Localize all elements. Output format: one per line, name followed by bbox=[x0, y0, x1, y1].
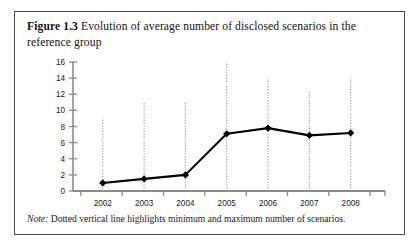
data-point-marker bbox=[99, 179, 106, 186]
x-axis-tick-label: 2003 bbox=[135, 199, 154, 208]
y-axis-tick-label: 10 bbox=[56, 106, 66, 115]
y-axis-tick-label: 6 bbox=[60, 139, 65, 148]
figure-label: Figure 1.3 bbox=[27, 20, 78, 33]
x-axis-tick-label: 2005 bbox=[218, 199, 237, 208]
y-axis-tick-label: 4 bbox=[60, 155, 65, 164]
x-axis-tick-label: 2004 bbox=[176, 199, 195, 208]
data-markers bbox=[99, 125, 354, 187]
data-point-marker bbox=[347, 129, 354, 136]
y-axis: 0246810121416 bbox=[56, 58, 77, 196]
line-chart: 0246810121416 20022003200420052006200720… bbox=[15, 56, 404, 214]
chart-plot-area: 0246810121416 20022003200420052006200720… bbox=[15, 56, 404, 214]
note-prefix: Note: bbox=[27, 213, 48, 224]
x-axis-tick-label: 2006 bbox=[259, 199, 278, 208]
x-axis-tick-label: 2008 bbox=[342, 199, 361, 208]
y-axis-tick-label: 2 bbox=[60, 171, 65, 180]
figure-container: Figure 1.3 Evolution of average number o… bbox=[14, 11, 405, 235]
y-axis-tick-label: 0 bbox=[60, 187, 65, 196]
error-bars bbox=[103, 62, 351, 191]
data-point-marker bbox=[140, 175, 147, 182]
note-body: Dotted vertical line highlights minimum … bbox=[48, 213, 345, 224]
y-axis-tick-label: 8 bbox=[60, 123, 65, 132]
data-point-marker bbox=[264, 125, 271, 132]
figure-note: Note: Dotted vertical line highlights mi… bbox=[27, 213, 393, 225]
figure-caption: Figure 1.3 Evolution of average number o… bbox=[27, 19, 393, 50]
y-axis-tick-label: 16 bbox=[56, 58, 66, 67]
y-axis-tick-label: 12 bbox=[56, 90, 66, 99]
x-axis-tick-label: 2007 bbox=[300, 199, 319, 208]
data-point-marker bbox=[306, 132, 313, 139]
y-axis-tick-label: 14 bbox=[56, 74, 66, 83]
x-axis-tick-label: 2002 bbox=[94, 199, 113, 208]
x-axis: 2002200320042005200620072008 bbox=[73, 191, 385, 208]
